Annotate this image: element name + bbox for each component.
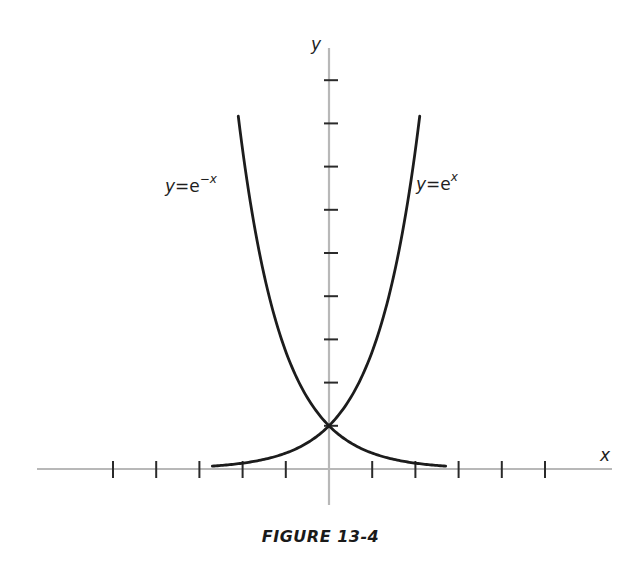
y-axis-label: y xyxy=(310,34,322,54)
x-axis-label: x xyxy=(599,445,611,465)
y-axis-ticks xyxy=(324,80,338,426)
curve-e-neg-x xyxy=(238,116,445,466)
label-e-x: y=ex xyxy=(415,170,459,194)
curve-e-x xyxy=(212,116,419,466)
figure-caption: FIGURE 13-4 xyxy=(0,527,641,546)
chart-figure: x y y=e−x y=ex xyxy=(0,0,641,581)
label-e-neg-x: y=e−x xyxy=(164,172,218,196)
